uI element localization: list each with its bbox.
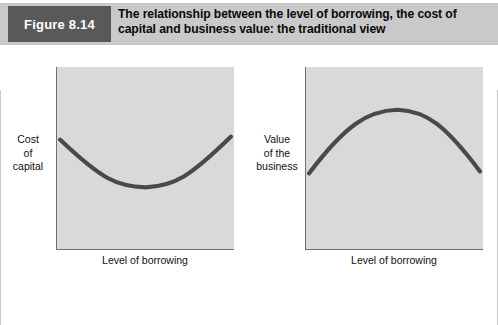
- y-axis-label-line-2: of the: [251, 147, 303, 161]
- cost-of-capital-curve: [60, 137, 231, 188]
- cost-of-capital-plot-area: [56, 67, 234, 250]
- value-of-business-curve-svg: [306, 67, 483, 249]
- cost-of-capital-x-axis-label: Level of borrowing: [56, 254, 234, 266]
- y-axis-label-line-3: capital: [2, 160, 54, 174]
- value-of-business-curve: [309, 110, 480, 174]
- cost-of-capital-curve-svg: [57, 67, 234, 249]
- charts-area: Cost of capital Level of borrowing Value…: [0, 45, 498, 280]
- y-axis-label-line-3: business: [251, 160, 303, 174]
- value-of-business-plot-area: [305, 67, 483, 250]
- y-axis-label-line-1: Cost: [2, 133, 54, 147]
- cost-of-capital-chart: Cost of capital Level of borrowing: [0, 45, 249, 280]
- value-of-business-chart: Value of the business Level of borrowing: [249, 45, 498, 280]
- value-of-business-x-axis-label: Level of borrowing: [305, 254, 483, 266]
- value-of-business-y-axis-label: Value of the business: [251, 133, 303, 174]
- figure-title: The relationship between the level of bo…: [118, 7, 490, 37]
- y-axis-label-line-2: of: [2, 147, 54, 161]
- y-axis-label-line-1: Value: [251, 133, 303, 147]
- cost-of-capital-y-axis-label: Cost of capital: [2, 133, 54, 174]
- figure-number-badge: Figure 8.14: [8, 6, 111, 42]
